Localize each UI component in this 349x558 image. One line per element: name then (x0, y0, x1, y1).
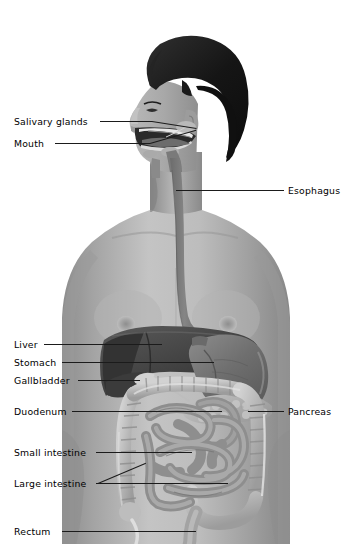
leader-small-intestine (96, 452, 192, 453)
leader-large-intestine (96, 483, 228, 484)
label-duodenum: Duodenum (14, 406, 67, 417)
leader-mouth (55, 143, 150, 144)
label-liver: Liver (14, 339, 38, 350)
label-mouth: Mouth (14, 138, 44, 149)
sublingual-gland (143, 150, 157, 158)
label-esophagus: Esophagus (288, 185, 340, 196)
label-small-intestine: Small intestine (14, 447, 86, 458)
label-salivary-glands: Salivary glands (14, 116, 88, 127)
trachea-hint (151, 158, 160, 178)
label-stomach: Stomach (14, 357, 56, 368)
leader-salivary-glands (100, 121, 152, 122)
leader-duodenum (72, 411, 222, 412)
leader-rectum (62, 531, 196, 532)
leader-liver (44, 344, 162, 345)
digestive-system-diagram: Salivary glands Mouth Esophagus Liver St… (0, 0, 349, 558)
leader-stomach (62, 362, 214, 363)
label-gallbladder: Gallbladder (14, 375, 70, 386)
breast-right-detail (219, 316, 237, 332)
label-rectum: Rectum (14, 526, 51, 537)
leader-pancreas (248, 411, 284, 412)
head-profile (130, 36, 249, 178)
label-pancreas: Pancreas (288, 406, 331, 417)
anatomical-figure-illustration (0, 0, 349, 558)
cecum (119, 502, 141, 522)
label-large-intestine: Large intestine (14, 478, 86, 489)
leader-esophagus (176, 190, 284, 191)
leader-gallbladder (78, 380, 140, 381)
